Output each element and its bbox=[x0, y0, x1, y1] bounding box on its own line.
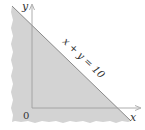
y-axis-label: y bbox=[21, 0, 29, 13]
half-plane-diagram: y x 0 x + y = 10 bbox=[0, 0, 145, 130]
shaded-region bbox=[11, 6, 131, 123]
origin-label: 0 bbox=[23, 110, 29, 121]
x-axis-label: x bbox=[130, 111, 137, 124]
